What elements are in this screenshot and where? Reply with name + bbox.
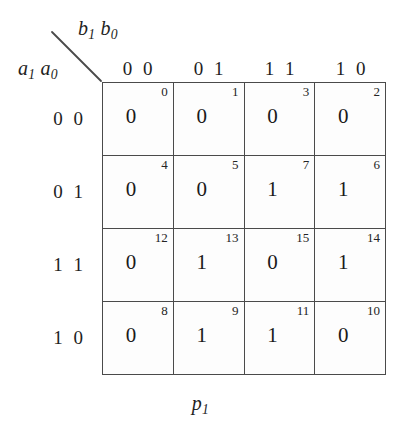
row-header-column: 0 0 0 1 1 1 1 0 bbox=[12, 82, 94, 375]
row-var-sub-high: 1 bbox=[28, 67, 35, 82]
cell-value: 1 bbox=[315, 252, 385, 273]
row-header-1: 0 1 bbox=[12, 155, 94, 228]
column-header-0: 0 0 bbox=[102, 56, 173, 82]
cell-value: 1 bbox=[174, 325, 244, 346]
row-header-0: 0 0 bbox=[12, 82, 94, 155]
cell-index: 10 bbox=[367, 304, 380, 318]
kmap-cell[interactable]: 0 0 bbox=[103, 83, 174, 156]
cell-value: 0 bbox=[174, 106, 244, 127]
kmap-cell[interactable]: 14 1 bbox=[315, 229, 386, 302]
cell-index: 4 bbox=[161, 158, 168, 172]
kmap-cell[interactable]: 7 1 bbox=[245, 156, 316, 229]
cell-value: 1 bbox=[245, 179, 315, 200]
cell-index: 7 bbox=[303, 158, 310, 172]
output-function-label: p1 bbox=[0, 393, 402, 416]
cell-value: 0 bbox=[103, 252, 173, 273]
cell-value: 1 bbox=[245, 325, 315, 346]
kmap-cell[interactable]: 15 0 bbox=[245, 229, 316, 302]
kmap-cell[interactable]: 10 0 bbox=[315, 302, 386, 375]
kmap-cell[interactable]: 1 0 bbox=[174, 83, 245, 156]
kmap-cell[interactable]: 9 1 bbox=[174, 302, 245, 375]
cell-index: 2 bbox=[374, 85, 381, 99]
cell-index: 3 bbox=[303, 85, 310, 99]
cell-index: 5 bbox=[232, 158, 239, 172]
cell-value: 0 bbox=[174, 179, 244, 200]
column-header-2: 1 1 bbox=[244, 56, 315, 82]
cell-value: 0 bbox=[315, 325, 385, 346]
kmap-cell[interactable]: 12 0 bbox=[103, 229, 174, 302]
cell-value: 0 bbox=[103, 325, 173, 346]
row-var-sub-low: 0 bbox=[51, 67, 58, 82]
cell-value: 0 bbox=[245, 106, 315, 127]
cell-index: 13 bbox=[226, 231, 239, 245]
cell-index: 9 bbox=[232, 304, 239, 318]
kmap-cell[interactable]: 5 0 bbox=[174, 156, 245, 229]
column-header-row: 0 0 0 1 1 1 1 0 bbox=[102, 56, 386, 82]
row-var-name: a bbox=[18, 57, 28, 79]
output-subscript: 1 bbox=[202, 402, 209, 417]
kmap-cell[interactable]: 11 1 bbox=[245, 302, 316, 375]
karnaugh-map-figure: b1 b0 a1 a0 0 0 0 1 1 1 1 0 0 0 0 1 1 1 … bbox=[0, 0, 402, 437]
kmap-cell[interactable]: 2 0 bbox=[315, 83, 386, 156]
kmap-cell[interactable]: 8 0 bbox=[103, 302, 174, 375]
cell-value: 0 bbox=[103, 179, 173, 200]
cell-index: 11 bbox=[297, 304, 310, 318]
kmap-cell[interactable]: 4 0 bbox=[103, 156, 174, 229]
cell-index: 0 bbox=[161, 85, 168, 99]
cell-value: 0 bbox=[103, 106, 173, 127]
col-var-name: b bbox=[78, 17, 88, 39]
cell-value: 1 bbox=[315, 179, 385, 200]
cell-index: 15 bbox=[296, 231, 309, 245]
output-name: p bbox=[192, 392, 202, 414]
cell-index: 1 bbox=[232, 85, 239, 99]
row-var-name-2: a bbox=[41, 57, 51, 79]
column-variable-label: b1 b0 bbox=[78, 18, 119, 41]
col-var-sub-high: 1 bbox=[88, 27, 95, 42]
cell-index: 14 bbox=[367, 231, 380, 245]
row-variable-label: a1 a0 bbox=[18, 58, 59, 81]
kmap-cell[interactable]: 13 1 bbox=[174, 229, 245, 302]
cell-index: 8 bbox=[161, 304, 168, 318]
kmap-cell[interactable]: 3 0 bbox=[245, 83, 316, 156]
kmap-cell[interactable]: 6 1 bbox=[315, 156, 386, 229]
cell-index: 6 bbox=[374, 158, 381, 172]
row-header-2: 1 1 bbox=[12, 229, 94, 302]
col-var-sub-low: 0 bbox=[111, 27, 118, 42]
col-var-name-2: b bbox=[101, 17, 111, 39]
cell-index: 12 bbox=[155, 231, 168, 245]
column-header-1: 0 1 bbox=[173, 56, 244, 82]
cell-value: 0 bbox=[245, 252, 315, 273]
column-header-3: 1 0 bbox=[315, 56, 386, 82]
cell-value: 1 bbox=[174, 252, 244, 273]
row-header-3: 1 0 bbox=[12, 302, 94, 375]
cell-value: 0 bbox=[315, 106, 385, 127]
kmap-grid: 0 0 1 0 3 0 2 0 4 0 5 0 7 1 6 1 bbox=[102, 82, 386, 375]
